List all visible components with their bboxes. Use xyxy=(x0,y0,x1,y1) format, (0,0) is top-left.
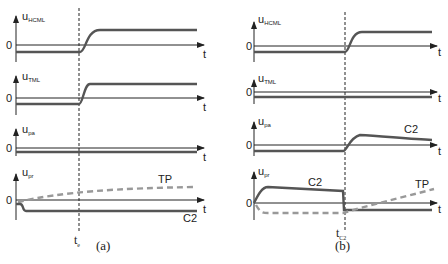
t-label: t xyxy=(203,151,206,163)
diagram-canvas: uHCML 0 t uTML 0 t upa 0 t upr xyxy=(0,0,448,264)
plot-b-uhcml: uHCML 0 t xyxy=(246,13,441,62)
zero-label: 0 xyxy=(246,139,252,151)
t-label: t xyxy=(438,203,441,215)
signal-label: uHCML xyxy=(22,10,46,23)
zero-label: 0 xyxy=(6,194,12,206)
signal-label: upr xyxy=(258,165,269,178)
signal-curve xyxy=(16,30,197,52)
signal-label: uHCML xyxy=(258,13,282,26)
event-label-te: te xyxy=(74,233,80,248)
t-label: t xyxy=(203,48,206,60)
panel-b: uHCML 0 t uTML 0 t upa 0 t C2 xyxy=(246,12,441,253)
zero-label: 0 xyxy=(6,142,12,154)
signal-label: uTML xyxy=(258,72,277,85)
t-label: t xyxy=(203,203,206,215)
c2-label: C2 xyxy=(404,123,418,135)
plot-b-utml: uTML 0 t xyxy=(246,72,441,104)
signal-curve xyxy=(254,32,432,52)
tp-label: TP xyxy=(158,173,172,185)
t-label: t xyxy=(203,101,206,113)
c2-label: C2 xyxy=(308,176,322,188)
zero-label: 0 xyxy=(6,39,12,51)
c2-curve xyxy=(16,204,197,211)
c2-label: C2 xyxy=(183,212,197,224)
t-label: t xyxy=(438,145,441,157)
zero-label: 0 xyxy=(246,86,252,98)
tp-label: TP xyxy=(415,178,429,190)
plot-a-utml: uTML 0 t xyxy=(6,70,206,115)
zero-label: 0 xyxy=(246,197,252,209)
plot-a-upa: upa 0 t xyxy=(6,123,206,163)
plot-b-upr: upr 0 t C2 TP xyxy=(246,165,441,220)
signal-curve xyxy=(16,84,197,104)
t-label: t xyxy=(438,46,441,58)
signal-label: upa xyxy=(258,115,271,128)
plot-a-upr: upr 0 t TP C2 xyxy=(6,166,206,224)
caption-a: (a) xyxy=(96,238,110,253)
signal-label: upa xyxy=(22,123,35,136)
caption-b: (b) xyxy=(335,238,350,253)
plot-b-upa: upa 0 t C2 xyxy=(246,115,441,157)
signal-curve xyxy=(254,135,432,151)
plot-a-uhcml: uHCML 0 t xyxy=(6,10,206,62)
c2-curve xyxy=(254,187,432,210)
signal-label: uTML xyxy=(22,70,41,83)
t-label: t xyxy=(438,92,441,104)
zero-label: 0 xyxy=(246,40,252,52)
panel-a: uHCML 0 t uTML 0 t upa 0 t upr xyxy=(6,8,206,253)
signal-label: upr xyxy=(22,166,33,179)
zero-label: 0 xyxy=(6,92,12,104)
